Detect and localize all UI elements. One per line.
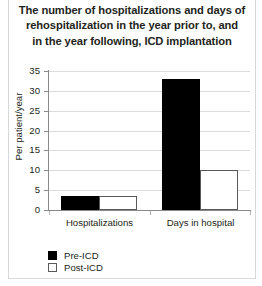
x-tick-mark [250,211,251,215]
legend-label-post-icd: Post-ICD [64,262,103,273]
gridline [49,150,250,151]
chart-figure: The number of hospitalizations and days … [0,0,262,286]
x-axis-category-label: Hospitalizations [49,217,150,229]
bar-pre-icd-hospitalizations [61,196,99,210]
gridline [49,111,250,112]
y-tick-label: 0 [16,205,40,215]
y-tick-mark [44,71,49,72]
legend-item-post-icd: Post-ICD [48,261,103,273]
chart-title-line-1: The number of hospitalizations and days … [10,3,254,18]
page-border-left [8,0,9,279]
chart-legend: Pre-ICD Post-ICD [48,249,103,273]
legend-item-pre-icd: Pre-ICD [48,249,103,261]
chart-title: The number of hospitalizations and days … [10,3,254,49]
legend-label-pre-icd: Pre-ICD [64,250,99,261]
chart-title-line-3: in the year following, ICD implantation [10,34,254,49]
y-tick-mark [44,131,49,132]
gridline [49,131,250,132]
chart-title-line-2: rehospitalization in the year prior to, … [10,18,254,33]
bar-post-icd-days-in-hospital [200,170,238,210]
y-tick-mark [44,190,49,191]
x-tick-mark [150,211,151,215]
y-tick-mark [44,91,49,92]
y-axis-label: Per patient/year [13,57,24,197]
gridline [49,71,250,72]
bar-pre-icd-days-in-hospital [162,79,200,210]
y-tick-mark [44,170,49,171]
x-tick-mark [49,211,50,215]
bar-post-icd-hospitalizations [99,196,137,210]
page-border-right [255,0,256,279]
x-axis-category-label: Days in hospital [150,217,251,229]
legend-swatch-filled-square [48,251,57,260]
y-tick-mark [44,111,49,112]
legend-swatch-outlined-square [48,263,57,272]
y-tick-mark [44,150,49,151]
gridline [49,91,250,92]
page-border-bottom [8,278,256,279]
